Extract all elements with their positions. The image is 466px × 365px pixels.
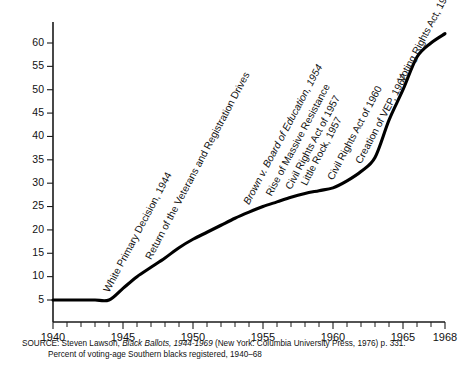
source-line: SOURCE: Steven Lawson, Black Ballots, 19…	[0, 338, 466, 349]
y-axis-ticks: 51015202530354045505560	[32, 36, 53, 305]
source-author: Steven Lawson,	[59, 339, 122, 348]
figure-caption: SOURCE: Steven Lawson, Black Ballots, 19…	[0, 338, 466, 360]
figure-container: 51015202530354045505560 1940194519501955…	[0, 0, 466, 365]
y-tick-label: 25	[32, 199, 44, 211]
data-series	[53, 34, 445, 301]
y-tick-label: 45	[32, 106, 44, 118]
y-tick-label: 20	[32, 223, 44, 235]
y-tick-label: 30	[32, 176, 44, 188]
source-prefix: SOURCE:	[22, 339, 59, 348]
annotation-label: Voting Rights Act, 1965	[395, 0, 454, 84]
y-tick-label: 55	[32, 59, 44, 71]
annotation: Voting Rights Act, 1965	[395, 0, 454, 84]
event-annotations: White Primary Decision, 1944Return of th…	[101, 0, 454, 294]
y-tick-label: 35	[32, 153, 44, 165]
source-title: Black Ballots, 1944-1969	[122, 339, 213, 348]
y-tick-label: 5	[38, 293, 44, 305]
y-tick-label: 10	[32, 269, 44, 281]
source-rest: (New York: Columbia University Press, 19…	[213, 339, 406, 348]
y-tick-label: 40	[32, 129, 44, 141]
annotation-label: Return of the Veterans and Registration …	[143, 70, 252, 261]
line-chart: 51015202530354045505560 1940194519501955…	[0, 0, 466, 365]
y-tick-label: 60	[32, 36, 44, 48]
y-tick-label: 50	[32, 83, 44, 95]
series-line	[53, 34, 445, 301]
figure-subtitle: Percent of voting-age Southern blacks re…	[0, 349, 466, 360]
annotation: Return of the Veterans and Registration …	[143, 70, 252, 261]
y-tick-label: 15	[32, 246, 44, 258]
